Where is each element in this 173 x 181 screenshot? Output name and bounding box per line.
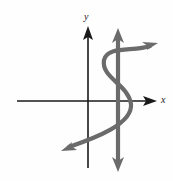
s-curve-path bbox=[69, 46, 150, 147]
x-axis bbox=[17, 96, 157, 106]
x-axis-label: x bbox=[161, 95, 165, 105]
y-axis bbox=[83, 26, 93, 168]
y-axis-label: y bbox=[84, 12, 88, 22]
graph-canvas bbox=[0, 0, 173, 181]
figure-container: y x bbox=[0, 0, 173, 181]
